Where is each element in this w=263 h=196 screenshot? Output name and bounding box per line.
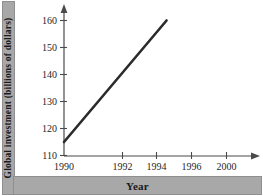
x-tick-labels: 1990 1992 1994 1996 2000 (54, 161, 237, 172)
x-tick-label: 1992 (113, 161, 133, 172)
y-tick-label: 130 (42, 96, 57, 107)
y-tick-label: 120 (42, 123, 57, 134)
x-tick-label: 1990 (54, 161, 74, 172)
data-series-line (64, 21, 167, 143)
y-axis (61, 4, 68, 156)
y-tick-label: 140 (42, 69, 57, 80)
x-tick-label: 1994 (147, 161, 167, 172)
y-tick-label: 150 (42, 42, 57, 53)
x-axis-label-band: Year (13, 176, 262, 195)
x-tick-label: 2000 (217, 161, 237, 172)
x-axis-arrowhead (251, 153, 260, 160)
x-axis (64, 153, 260, 160)
x-axis-label: Year (126, 180, 149, 192)
y-axis-arrowhead (61, 4, 68, 13)
y-tick-label: 110 (42, 150, 57, 161)
y-tick-label: 160 (42, 15, 57, 26)
chart-figure: Global investment (billions of dollars) … (0, 0, 263, 196)
x-tick-label: 1996 (182, 161, 202, 172)
y-axis-label: Global investment (billions of dollars) (4, 18, 14, 179)
y-axis-label-band: Global investment (billions of dollars) (2, 1, 15, 195)
y-tick-labels: 110 120 130 140 150 160 (42, 15, 57, 161)
plot-area: 110 120 130 140 150 160 1990 1992 1994 1… (15, 0, 263, 176)
